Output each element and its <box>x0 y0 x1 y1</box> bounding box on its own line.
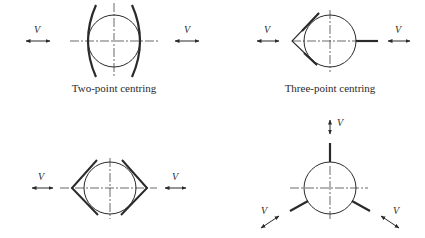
panel-double-v-jaw-centring: V V <box>32 158 186 219</box>
v-jaw-upper-thick <box>302 13 319 31</box>
diagram-canvas: V V V V V V V V <box>0 0 425 238</box>
velocity-label-right: V <box>172 171 180 182</box>
panel-three-radial-jaw-centring: V V V <box>261 117 401 228</box>
velocity-label-right: V <box>395 24 403 35</box>
left-v-jaw <box>72 160 98 215</box>
caption-three-point-centring: Three-point centring <box>285 82 376 94</box>
lower-right-radial-jaw <box>352 201 370 211</box>
v-jaw-lower-thick <box>304 53 317 65</box>
lower-right-velocity-arrow <box>381 216 399 228</box>
velocity-label-left: V <box>34 24 42 35</box>
velocity-label-right: V <box>184 24 192 35</box>
lower-left-velocity-arrow <box>261 216 279 228</box>
velocity-label-left: V <box>38 171 46 182</box>
panel-two-point-centring: V V <box>26 3 199 78</box>
velocity-label-lower-left: V <box>261 205 269 216</box>
velocity-label-top: V <box>337 117 345 128</box>
velocity-label-left: V <box>264 24 272 35</box>
panel-three-point-centring: V V <box>257 10 410 72</box>
v-jaw <box>292 13 319 65</box>
caption-two-point-centring: Two-point centring <box>72 82 156 94</box>
lower-left-radial-jaw <box>290 201 308 211</box>
right-v-jaw <box>121 160 147 215</box>
velocity-label-lower-right: V <box>393 205 401 216</box>
